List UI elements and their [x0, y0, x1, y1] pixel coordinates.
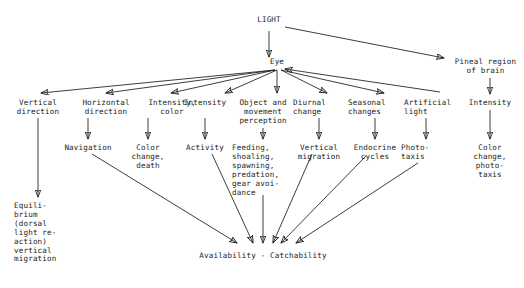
node-object-and-movement-perception: Object and movement perception [229, 99, 297, 126]
edge-eye-intensity [225, 70, 277, 93]
edge-eye-seasonal-changes [281, 70, 384, 93]
node-endocrine-cycles: Endocrine cycles [343, 144, 407, 162]
node-light: LIGHT [239, 16, 299, 25]
diagram-canvas: LIGHT Eye Pineal region of brain Vertica… [0, 0, 524, 288]
edge-eye-vertical-direction [41, 70, 275, 93]
node-diurnal-change: Diurnal change [293, 99, 345, 117]
edge-eye-diurnal-change [281, 70, 327, 93]
node-color-change-death: Color change, death [118, 144, 178, 171]
node-vertical-direction: Vertical direction [5, 99, 71, 117]
node-artificial-light: Artificial light [404, 99, 462, 117]
node-vertical-migration: Vertical migration [287, 144, 351, 162]
node-availability-catchability: Availability - Catchability [173, 252, 353, 261]
node-color-change-phototaxis: Color change, photo- taxis [460, 144, 520, 180]
node-activity: Activity [174, 144, 236, 153]
node-seasonal-changes: Seasonal changes [348, 99, 406, 117]
edge-phototaxis-availability [296, 163, 418, 243]
edge-eye-intensity-color [171, 70, 275, 93]
edge-eye-horizontal-direction [106, 70, 275, 93]
edge-light-pineal [285, 27, 444, 58]
node-navigation: Navigation [55, 144, 121, 153]
node-pineal-region-of-brain: Pineal region of brain [447, 58, 524, 76]
edge-artificial-light-eye [285, 69, 440, 92]
node-eye: Eye [249, 58, 305, 67]
node-phototaxis: Photo- taxis [401, 144, 451, 162]
node-equilibrium: Equili- brium (dorsal light re- action) … [14, 202, 76, 264]
node-horizontal-direction: Horizontal direction [70, 99, 142, 117]
node-intensity-right: Intensity [459, 99, 521, 108]
node-intensity: Intensity [174, 99, 236, 108]
